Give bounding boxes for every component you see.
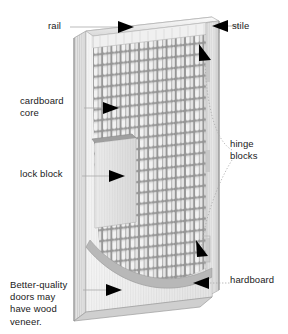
label-veneer-note: Better-quality doors may have wood venee…: [10, 279, 67, 328]
label-cardboard-core: cardboard core: [20, 95, 64, 119]
lock-block-grain: [95, 138, 136, 228]
label-hinge-blocks: hinge blocks: [230, 138, 258, 162]
lock-block: [92, 134, 136, 228]
label-rail: rail: [48, 20, 61, 32]
label-lock-block: lock block: [20, 168, 63, 180]
diagram-canvas: rail stile cardboard core lock block hin…: [0, 0, 288, 334]
label-stile: stile: [232, 20, 249, 32]
label-hardboard: hardboard: [230, 274, 274, 286]
